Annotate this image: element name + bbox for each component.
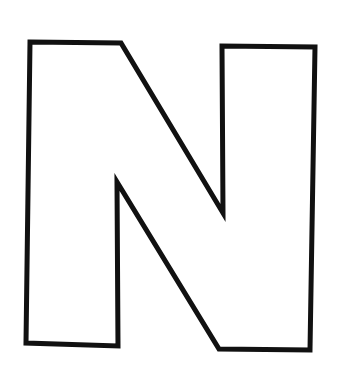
letter-n-outline-icon <box>0 0 337 374</box>
